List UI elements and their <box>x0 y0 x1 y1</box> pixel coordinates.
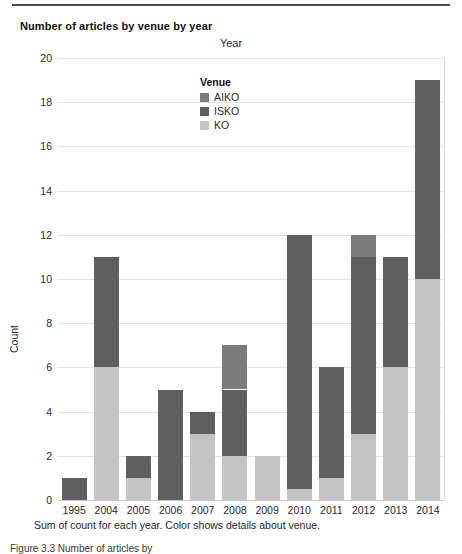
bar-2004[interactable] <box>94 58 119 500</box>
y-tick-label: 2 <box>12 450 52 462</box>
legend-item-aiko[interactable]: AIKO <box>200 91 239 104</box>
legend-swatch-icon <box>200 121 209 130</box>
y-tick-label: 6 <box>12 361 52 373</box>
y-axis-ticks: Count 02468101214161820 <box>8 58 52 500</box>
bar-segment-2009-ko[interactable] <box>255 456 280 500</box>
plot-right-border <box>444 58 445 500</box>
y-axis-title: Count <box>8 325 20 353</box>
legend-item-ko[interactable]: KO <box>200 119 239 132</box>
bar-2014[interactable] <box>415 58 440 500</box>
bar-segment-2011-ko[interactable] <box>319 478 344 500</box>
header-rule <box>12 4 450 6</box>
bar-segment-2011-isko[interactable] <box>319 367 344 478</box>
bar-segment-2013-ko[interactable] <box>383 367 408 500</box>
legend: Venue AIKOISKOKO <box>200 76 239 133</box>
bar-segment-2005-isko[interactable] <box>126 456 151 478</box>
legend-title: Venue <box>200 76 239 88</box>
bar-segment-1995-isko[interactable] <box>62 478 87 500</box>
chart-caption: Sum of count for each year. Color shows … <box>34 519 320 531</box>
bar-segment-2008-ko[interactable] <box>222 456 247 500</box>
x-tick-label-2014: 2014 <box>412 504 444 516</box>
y-tick-label: 14 <box>12 185 52 197</box>
bar-segment-2014-isko[interactable] <box>415 80 440 279</box>
legend-swatch-icon <box>200 93 209 102</box>
x-tick-label-2008: 2008 <box>219 504 251 516</box>
bar-segment-2008-aiko[interactable] <box>222 345 247 389</box>
legend-item-label: ISKO <box>214 106 239 117</box>
x-tick-label-2009: 2009 <box>251 504 283 516</box>
figure-note: Figure 3.3 Number of articles by <box>10 543 462 554</box>
x-tick-label-2013: 2013 <box>380 504 412 516</box>
x-tick-label-2006: 2006 <box>155 504 187 516</box>
y-tick-label: 18 <box>12 96 52 108</box>
bar-segment-2012-aiko[interactable] <box>351 235 376 257</box>
bar-segment-2014-ko[interactable] <box>415 279 440 500</box>
bar-segment-2012-isko[interactable] <box>351 257 376 434</box>
bar-segment-2008-isko[interactable] <box>222 390 247 456</box>
bar-segment-2013-isko[interactable] <box>383 257 408 368</box>
x-tick-label-2007: 2007 <box>187 504 219 516</box>
x-axis-title: Year <box>0 37 462 49</box>
bar-2009[interactable] <box>255 58 280 500</box>
legend-item-isko[interactable]: ISKO <box>200 105 239 118</box>
bar-2012[interactable] <box>351 58 376 500</box>
bar-2011[interactable] <box>319 58 344 500</box>
gridline <box>58 500 444 501</box>
x-tick-label-2004: 2004 <box>90 504 122 516</box>
y-tick-label: 20 <box>12 52 52 64</box>
bar-segment-2004-ko[interactable] <box>94 367 119 500</box>
bar-segment-2007-isko[interactable] <box>190 412 215 434</box>
bar-segment-2005-ko[interactable] <box>126 478 151 500</box>
plot-area: 1995200420052006200720082009201020112012… <box>58 58 444 500</box>
y-tick-label: 8 <box>12 317 52 329</box>
y-tick-label: 12 <box>12 229 52 241</box>
x-tick-label-2010: 2010 <box>283 504 315 516</box>
legend-items: AIKOISKOKO <box>200 91 239 132</box>
bar-segment-2012-ko[interactable] <box>351 434 376 500</box>
x-tick-label-1995: 1995 <box>58 504 90 516</box>
bar-2010[interactable] <box>287 58 312 500</box>
bar-segment-2004-isko[interactable] <box>94 257 119 368</box>
bar-segment-2010-isko[interactable] <box>287 235 312 489</box>
y-tick-label: 0 <box>12 494 52 506</box>
legend-item-label: AIKO <box>214 92 239 103</box>
bar-segment-2010-ko[interactable] <box>287 489 312 500</box>
legend-item-label: KO <box>214 120 229 131</box>
x-tick-label-2012: 2012 <box>348 504 380 516</box>
y-tick-label: 16 <box>12 140 52 152</box>
bar-2005[interactable] <box>126 58 151 500</box>
y-tick-label: 10 <box>12 273 52 285</box>
bar-segment-2006-isko[interactable] <box>158 390 183 501</box>
bar-1995[interactable] <box>62 58 87 500</box>
bar-segment-2007-ko[interactable] <box>190 434 215 500</box>
y-tick-label: 4 <box>12 406 52 418</box>
bar-2006[interactable] <box>158 58 183 500</box>
legend-swatch-icon <box>200 107 209 116</box>
chart-title: Number of articles by venue by year <box>20 20 212 32</box>
x-tick-label-2005: 2005 <box>122 504 154 516</box>
bar-2013[interactable] <box>383 58 408 500</box>
x-tick-label-2011: 2011 <box>315 504 347 516</box>
